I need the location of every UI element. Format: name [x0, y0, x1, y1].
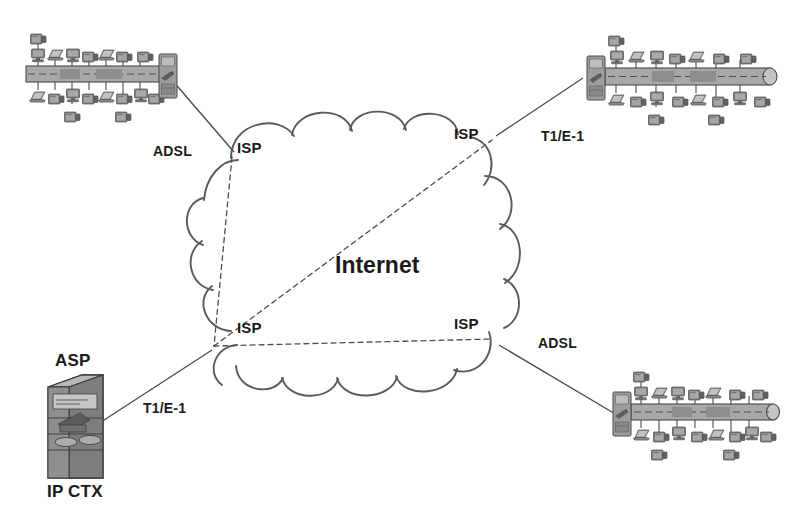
lan-bus-bottom-right: [631, 404, 780, 420]
access-link-adsl-bottom-right: [499, 345, 617, 415]
lan-segment-bottom-right: [613, 372, 780, 460]
lan-workstations-bottom-right-upper: [634, 372, 769, 400]
lan-workstations-bottom-right-lower: [634, 427, 777, 460]
isp-label-bottom-right: ISP: [454, 316, 479, 331]
isp-mesh-links: [214, 140, 492, 346]
access-link-adsl-top-left: [172, 80, 234, 152]
lan-bus-top-left: [26, 66, 160, 82]
link-label-adsl-bottom-right: ADSL: [538, 336, 577, 350]
isp-link-left-vertical: [214, 157, 232, 346]
access-links: [101, 78, 617, 422]
lan-workstations-top-right-upper: [609, 36, 757, 64]
link-label-adsl-top-left: ADSL: [153, 144, 192, 158]
asp-label-top: ASP: [55, 352, 91, 369]
lan-workstations-top-right-lower: [609, 92, 771, 125]
isp-label-top-left: ISP: [237, 140, 262, 155]
asp-label-bottom: IP CTX: [47, 483, 103, 500]
lan-workstations-top-left-upper: [31, 34, 154, 62]
lan-gateway-bottom-right: [613, 392, 631, 436]
link-label-t1e1-asp: T1/E-1: [143, 401, 186, 415]
isp-link-diagonal: [214, 140, 492, 346]
link-label-t1e1-top-right: T1/E-1: [541, 129, 584, 143]
lan-gateway-top-right: [587, 56, 605, 100]
internet-cloud-label: Internet: [335, 254, 419, 277]
lan-bus-top-right: [605, 68, 777, 85]
lan-workstations-top-left-lower: [30, 89, 165, 122]
isp-label-top-right: ISP: [454, 126, 479, 141]
lan-segment-top-right: [587, 36, 777, 125]
network-topology-diagram: ISP ISP ISP ISP Internet ADSL T1/E-1 ADS…: [0, 0, 800, 517]
isp-link-bottom-horizontal: [214, 339, 492, 346]
isp-label-bottom-left: ISP: [237, 320, 262, 335]
asp-server-tower: [48, 375, 103, 478]
lan-segment-top-left: [26, 34, 177, 122]
lan-gateway-top-left: [159, 54, 177, 98]
